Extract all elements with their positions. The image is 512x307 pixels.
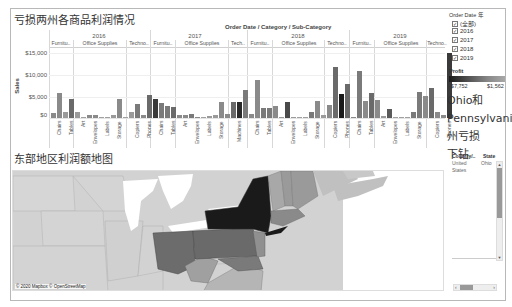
checkbox-checked-icon[interactable]: ✓ bbox=[452, 37, 458, 43]
bar[interactable] bbox=[309, 112, 314, 119]
bar[interactable] bbox=[315, 101, 320, 118]
bar[interactable] bbox=[57, 93, 62, 118]
bar[interactable] bbox=[135, 104, 140, 118]
bar[interactable] bbox=[429, 88, 434, 118]
bar[interactable] bbox=[213, 115, 218, 118]
bar[interactable] bbox=[147, 95, 152, 118]
x-axis-label: Tables bbox=[68, 121, 74, 148]
table-header-state[interactable]: State bbox=[483, 153, 495, 159]
filter-option-label: (全部) bbox=[460, 19, 476, 28]
checkbox-checked-icon[interactable]: ✓ bbox=[452, 46, 458, 52]
bar[interactable] bbox=[129, 112, 134, 118]
bar[interactable] bbox=[261, 108, 266, 118]
bar[interactable] bbox=[255, 80, 260, 118]
bar[interactable] bbox=[291, 117, 296, 118]
bar[interactable] bbox=[165, 106, 170, 118]
x-axis-label: Labels bbox=[104, 121, 110, 148]
bar[interactable] bbox=[243, 90, 248, 118]
bar[interactable] bbox=[435, 112, 440, 118]
bar[interactable] bbox=[117, 99, 122, 118]
table-cell-country: United States bbox=[452, 160, 478, 174]
bar[interactable] bbox=[333, 67, 338, 118]
bar[interactable] bbox=[423, 96, 428, 118]
bar[interactable] bbox=[63, 112, 68, 119]
bar[interactable] bbox=[195, 117, 200, 118]
bar[interactable] bbox=[111, 115, 116, 118]
bar[interactable] bbox=[339, 94, 344, 118]
bar[interactable] bbox=[51, 113, 56, 118]
bar[interactable] bbox=[357, 71, 362, 118]
table-header-country[interactable]: Country/.. bbox=[452, 153, 475, 159]
filter-option-2018[interactable]: ✓2018 bbox=[452, 46, 473, 52]
x-axis-label: Storage bbox=[416, 121, 422, 148]
bar[interactable] bbox=[219, 102, 224, 118]
bar[interactable] bbox=[369, 93, 374, 118]
bar[interactable] bbox=[207, 116, 212, 118]
bar[interactable] bbox=[93, 115, 98, 118]
bar[interactable] bbox=[303, 117, 308, 118]
profit-legend-max: $1,562 bbox=[487, 83, 504, 89]
bar[interactable] bbox=[327, 105, 332, 118]
bar[interactable] bbox=[189, 114, 194, 118]
x-axis-label: Envelopes bbox=[392, 121, 398, 148]
bar[interactable] bbox=[267, 108, 272, 118]
bar[interactable] bbox=[183, 115, 188, 118]
bar[interactable] bbox=[75, 112, 80, 118]
filter-option-2016[interactable]: ✓2016 bbox=[452, 28, 473, 34]
bar[interactable] bbox=[201, 117, 206, 118]
bar[interactable] bbox=[105, 117, 110, 118]
bar[interactable] bbox=[393, 117, 398, 118]
scroll-left-icon[interactable]: ‹ bbox=[455, 284, 457, 290]
table-cell-state: Ohio bbox=[481, 160, 492, 166]
bar[interactable] bbox=[153, 99, 158, 119]
bar[interactable] bbox=[387, 109, 392, 118]
map-attribution[interactable]: © 2020 Mapbox © OpenStreetMap bbox=[15, 284, 86, 289]
bar[interactable] bbox=[69, 99, 74, 118]
bar[interactable] bbox=[225, 114, 230, 118]
scroll-up-icon[interactable]: ▲ bbox=[497, 162, 502, 167]
bar[interactable] bbox=[273, 106, 278, 118]
filter-option-all[interactable]: ✓(全部) bbox=[452, 19, 476, 28]
bar[interactable] bbox=[399, 117, 404, 118]
choropleth-map[interactable]: © 2020 Mapbox © OpenStreetMap bbox=[12, 170, 444, 291]
filter-option-2019[interactable]: ✓2019 bbox=[452, 55, 473, 61]
bar[interactable] bbox=[345, 84, 350, 118]
scrollbar-thumb[interactable] bbox=[460, 285, 473, 290]
bar[interactable] bbox=[297, 117, 302, 118]
bar[interactable] bbox=[279, 117, 284, 118]
bar[interactable] bbox=[231, 102, 236, 118]
x-axis-label: Labels bbox=[404, 121, 410, 148]
table-horizontal-scrollbar[interactable]: ‹ › bbox=[453, 284, 497, 291]
bar[interactable] bbox=[381, 116, 386, 118]
bar[interactable] bbox=[249, 114, 254, 118]
bar[interactable] bbox=[81, 117, 86, 118]
filter-option-2017[interactable]: ✓2017 bbox=[452, 37, 473, 43]
bar[interactable] bbox=[405, 117, 410, 118]
bar[interactable] bbox=[159, 103, 164, 118]
bar[interactable] bbox=[237, 102, 242, 118]
scroll-right-icon[interactable]: › bbox=[493, 284, 495, 290]
bar[interactable] bbox=[285, 102, 290, 118]
bar[interactable] bbox=[141, 115, 146, 118]
bar[interactable] bbox=[363, 101, 368, 118]
checkbox-checked-icon[interactable]: ✓ bbox=[452, 28, 458, 34]
table-vertical-scrollbar[interactable]: ▲ ▼ bbox=[496, 161, 503, 261]
bar[interactable] bbox=[417, 92, 422, 118]
x-axis-label: Chairs bbox=[158, 121, 164, 148]
checkbox-checked-icon[interactable]: ✓ bbox=[452, 21, 458, 27]
bar[interactable] bbox=[441, 115, 446, 118]
bar[interactable] bbox=[87, 115, 92, 118]
bar[interactable] bbox=[99, 117, 104, 118]
bar[interactable] bbox=[411, 112, 416, 118]
bar[interactable] bbox=[171, 107, 176, 118]
x-axis-label: Chairs bbox=[56, 121, 62, 148]
bar[interactable] bbox=[321, 115, 326, 118]
map-canvas[interactable] bbox=[13, 171, 444, 291]
bar[interactable] bbox=[177, 115, 182, 118]
scrollbar-thumb[interactable] bbox=[497, 168, 502, 218]
checkbox-checked-icon[interactable]: ✓ bbox=[452, 55, 458, 61]
bar[interactable] bbox=[123, 117, 128, 118]
bar[interactable] bbox=[375, 100, 380, 118]
scroll-down-icon[interactable]: ▼ bbox=[497, 255, 502, 260]
bar[interactable] bbox=[351, 117, 356, 118]
